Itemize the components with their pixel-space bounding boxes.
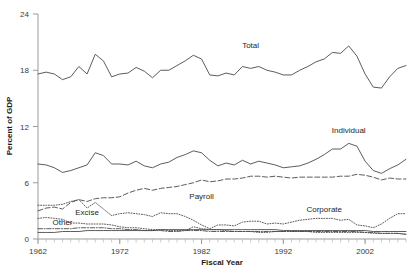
x-tick-label: 1962 [29, 247, 47, 256]
series-label-total: Total [242, 41, 259, 50]
y-tick-label: 0 [25, 235, 30, 244]
y-axis-title: Percent of GDP [5, 96, 14, 155]
y-tick-label: 12 [20, 123, 29, 132]
series-label-excise: Excise [75, 208, 99, 217]
revenue-by-source-line-chart: 06121824 19621972198219922002 TotalIndiv… [0, 0, 414, 274]
series-label-corporate: Corporate [306, 205, 342, 214]
series-label-individual: Individual [332, 126, 366, 135]
x-tick-label: 1992 [274, 247, 292, 256]
x-axis-title: Fiscal Year [201, 258, 243, 267]
series-label-other: Other [53, 218, 73, 227]
y-tick-label: 6 [25, 179, 30, 188]
y-tick-label: 18 [20, 66, 29, 75]
series-label-payroll: Payroll [189, 192, 214, 201]
x-tick-label: 2002 [356, 247, 374, 256]
y-tick-label: 24 [20, 10, 29, 19]
chart-background [0, 0, 414, 274]
x-tick-label: 1972 [111, 247, 129, 256]
chart-figure: 06121824 19621972198219922002 TotalIndiv… [0, 0, 414, 274]
x-tick-label: 1982 [193, 247, 211, 256]
